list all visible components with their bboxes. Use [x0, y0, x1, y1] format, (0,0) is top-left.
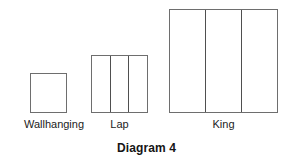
- quilt-panel: [206, 10, 242, 112]
- quilt-panel: [170, 10, 206, 112]
- diagram-caption: Diagram 4: [0, 141, 293, 156]
- quilt-shape-lap: [91, 55, 148, 113]
- quilt-panel: [31, 74, 66, 112]
- quilt-panel: [129, 56, 147, 112]
- quilt-panel: [111, 56, 130, 112]
- quilt-shape-wallhanging: [30, 73, 67, 113]
- shape-label-lap: Lap: [91, 117, 148, 131]
- quilt-shape-king: [169, 9, 278, 113]
- diagram-canvas: Wallhanging Lap King Diagram 4: [0, 0, 293, 163]
- quilt-panel: [242, 10, 277, 112]
- shape-label-king: King: [169, 117, 278, 131]
- quilt-panel: [92, 56, 111, 112]
